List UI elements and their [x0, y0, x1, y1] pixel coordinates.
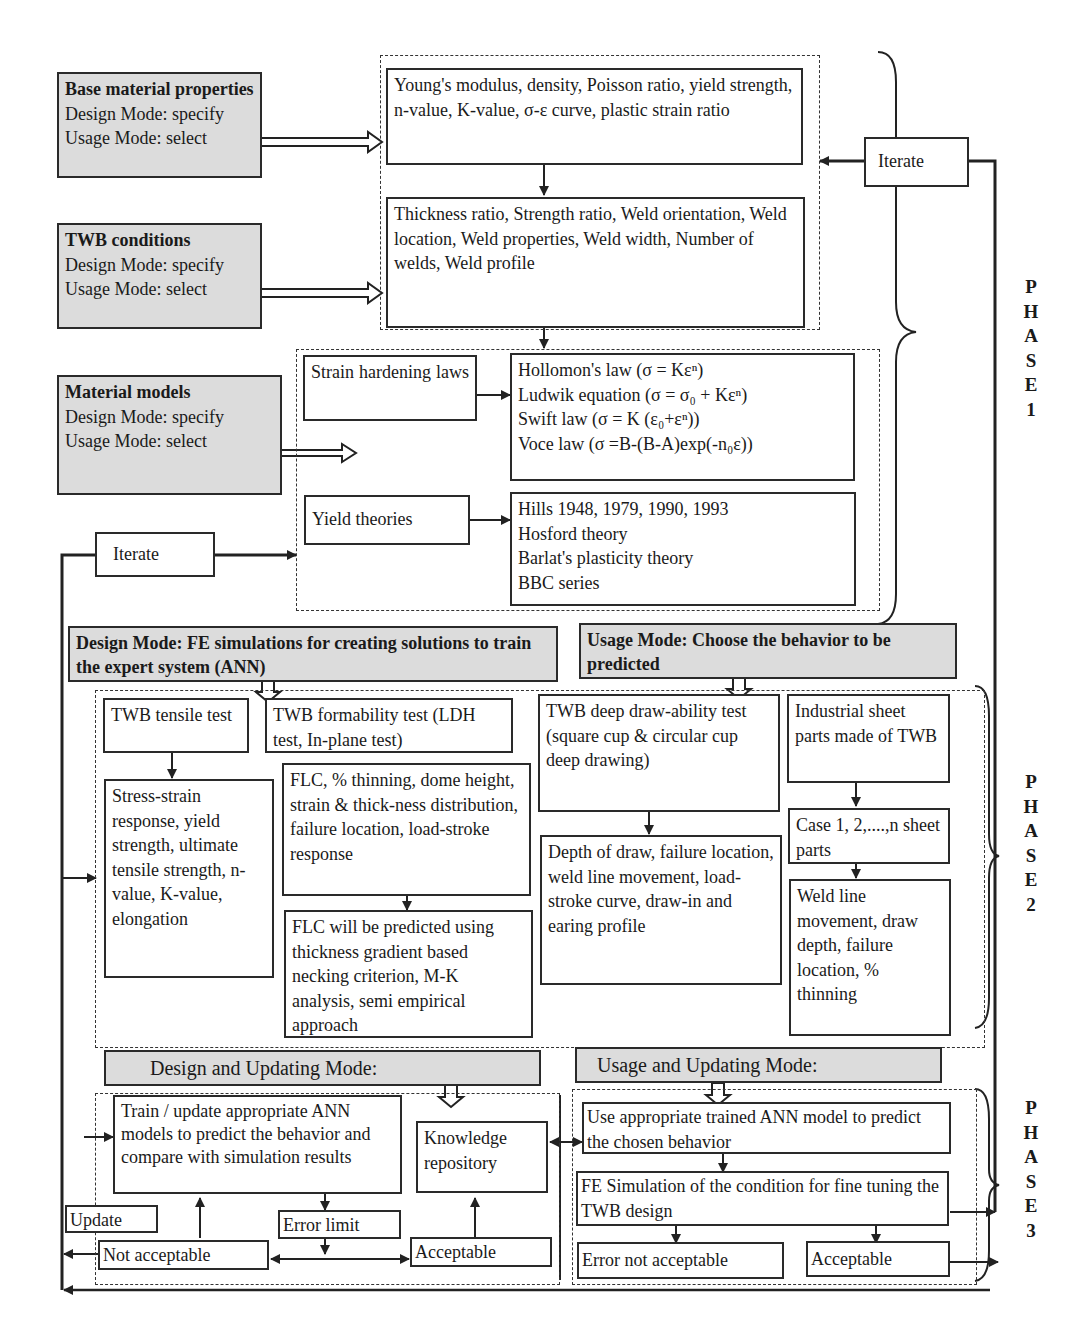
yield-hosford: Hosford theory	[518, 522, 848, 547]
yield-theories-box: Yield theories	[304, 495, 470, 545]
not-acceptable-box: Not acceptable	[98, 1240, 269, 1270]
twb-parameters-box: Thickness ratio, Strength ratio, Weld or…	[386, 197, 805, 328]
box-title: Base material properties	[65, 77, 254, 102]
usage-mode-text: Usage Mode: select	[65, 429, 274, 454]
acceptable-right-box: Acceptable	[806, 1241, 950, 1277]
iterate-right-box: Iterate	[864, 137, 969, 187]
law-hollomon: Hollomon's law (σ = Kεⁿ)	[518, 358, 847, 383]
flc-prediction-box: FLC will be predicted using thickness gr…	[284, 910, 533, 1038]
yield-hills: Hills 1948, 1979, 1990, 1993	[518, 497, 848, 522]
design-updating-header: Design and Updating Mode:	[104, 1050, 541, 1086]
hardening-laws-box: Hollomon's law (σ = Kεⁿ) Ludwik equation…	[510, 353, 855, 481]
box-title: Material models	[65, 380, 274, 405]
update-box: Update	[65, 1205, 158, 1233]
yield-bbc: BBC series	[518, 571, 848, 596]
usage-mode-text: Usage Mode: select	[65, 126, 254, 151]
design-mode-text: Design Mode: specify	[65, 102, 254, 127]
usage-mode-text: Usage Mode: select	[65, 277, 254, 302]
yield-barlat: Barlat's plasticity theory	[518, 546, 848, 571]
phase-3-label: PHASE3	[1021, 1096, 1041, 1243]
phase-1-label: PHASE1	[1021, 275, 1041, 422]
twb-conditions-box: TWB conditions Design Mode: specify Usag…	[57, 223, 262, 329]
law-swift: Swift law (σ = K (ε₀+εⁿ))	[518, 407, 847, 432]
deep-draw-results-box: Depth of draw, failure location, weld li…	[540, 835, 782, 985]
industrial-parts-box: Industrial sheet parts made of TWB	[787, 694, 950, 783]
tensile-results-box: Stress-strain response, yield strength, …	[104, 779, 274, 978]
knowledge-repository-box: Knowledge repository	[416, 1121, 548, 1193]
deep-draw-test-box: TWB deep draw-ability test (square cup &…	[538, 694, 780, 812]
law-voce: Voce law (σ =B-(B-A)exp(-n₀ε))	[518, 432, 847, 457]
industrial-results-box: Weld line movement, draw depth, failure …	[789, 879, 951, 1036]
design-mode-text: Design Mode: specify	[65, 405, 274, 430]
design-mode-text: Design Mode: specify	[65, 253, 254, 278]
material-properties-box: Young's modulus, density, Poisson ratio,…	[386, 68, 803, 165]
strain-hardening-box: Strain hardening laws	[303, 355, 477, 421]
acceptable-left-box: Acceptable	[410, 1237, 552, 1267]
design-mode-header: Design Mode: FE simulations for creating…	[68, 626, 558, 682]
usage-updating-header: Usage and Updating Mode:	[575, 1047, 942, 1083]
error-limit-box: Error limit	[278, 1210, 401, 1239]
tensile-test-box: TWB tensile test	[103, 698, 249, 753]
fe-simulation-box: FE Simulation of the condition for fine …	[576, 1171, 949, 1226]
phase-2-label: PHASE2	[1021, 770, 1041, 917]
usage-mode-header: Usage Mode: Choose the behavior to be pr…	[579, 623, 957, 679]
use-ann-model-box: Use appropriate trained ANN model to pre…	[582, 1102, 951, 1154]
train-ann-box: Train / update appropriate ANN models to…	[113, 1095, 402, 1194]
law-ludwik: Ludwik equation (σ = σ₀ + Kεⁿ)	[518, 383, 847, 408]
formability-results-box: FLC, % thinning, dome height, strain & t…	[282, 763, 531, 896]
iterate-left-box: Iterate	[95, 532, 215, 577]
error-not-acceptable-box: Error not acceptable	[577, 1242, 784, 1279]
cases-box: Case 1, 2,....,n sheet parts	[788, 808, 950, 864]
base-material-box: Base material properties Design Mode: sp…	[57, 72, 262, 178]
material-models-box: Material models Design Mode: specify Usa…	[57, 375, 282, 495]
box-title: TWB conditions	[65, 228, 254, 253]
yield-list-box: Hills 1948, 1979, 1990, 1993 Hosford the…	[510, 492, 856, 606]
formability-test-box: TWB formability test (LDH test, In-plane…	[265, 698, 513, 753]
